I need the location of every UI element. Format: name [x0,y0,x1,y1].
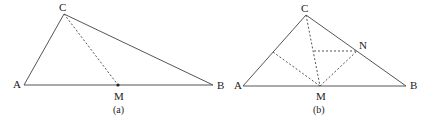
label-m-b: M [316,90,326,102]
segment-mn-b [320,51,357,86]
label-b-a: B [217,79,224,91]
segment-ac-b [243,15,306,86]
figure-a: A C M (a) [13,1,213,116]
label-b-b: B [410,79,417,91]
caption-b: (b) [313,104,325,116]
label-c-a: C [59,1,66,13]
figure-b: A C B M N (b) [234,2,417,116]
segment-cm-b [306,15,320,86]
label-c-b: C [301,2,308,14]
label-m-a: M [114,90,124,102]
geometry-figure: A C M (a) B A C B M N (b) [0,0,428,126]
caption-a: (a) [113,104,124,116]
label-a-a: A [13,78,21,90]
point-m-dot [116,83,119,86]
label-a-b: A [234,79,242,91]
segment-ac-a [24,14,64,85]
label-n-b: N [359,39,367,51]
segment-cb-a [64,14,213,85]
median-cm-a [64,14,118,85]
perpendicular-m-to-ac [273,52,320,86]
